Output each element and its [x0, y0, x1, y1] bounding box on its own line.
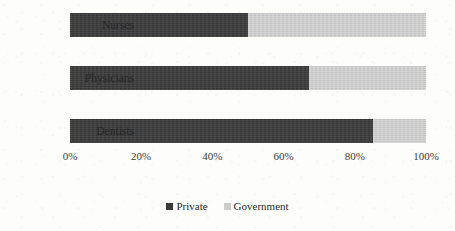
legend-swatch-icon-government — [224, 203, 231, 210]
category-label-nurses: Nurses — [70, 13, 134, 37]
bar-segment-government-nurses — [248, 13, 426, 37]
bar-segment-government-dentists — [373, 119, 426, 143]
legend-item-government: Government — [224, 200, 289, 212]
bar-segment-government-physicians — [309, 66, 426, 90]
x-tick-label-100: 100% — [413, 150, 439, 162]
bar-row-dentists: Dentists — [70, 119, 426, 143]
category-label-physicians: Physicians — [70, 66, 134, 90]
plot-area: Nurses Physicians Dentists — [70, 8, 426, 147]
legend-label-private: Private — [176, 200, 207, 212]
legend-label-government: Government — [234, 200, 289, 212]
bar-row-nurses: Nurses — [70, 13, 426, 37]
chart-legend: Private Government — [0, 200, 455, 212]
stacked-bar-chart: Nurses Physicians Dentists 0% 20% 40% 60… — [0, 0, 455, 231]
x-tick-label-0: 0% — [63, 150, 78, 162]
x-axis: 0% 20% 40% 60% 80% 100% — [70, 150, 426, 170]
category-label-dentists: Dentists — [70, 119, 134, 143]
legend-item-private: Private — [166, 200, 207, 212]
x-tick-label-80: 80% — [345, 150, 365, 162]
legend-swatch-icon-private — [166, 203, 173, 210]
x-tick-label-60: 60% — [274, 150, 294, 162]
bar-row-physicians: Physicians — [70, 66, 426, 90]
x-tick-label-40: 40% — [202, 150, 222, 162]
x-tick-label-20: 20% — [131, 150, 151, 162]
